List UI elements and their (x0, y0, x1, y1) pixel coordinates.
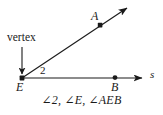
point-dot-E (20, 76, 25, 81)
geometry-figure: vertex A B E 2 s ∠2, ∠E, ∠AEB (0, 0, 163, 115)
point-dot-A (98, 23, 103, 28)
ray-ea-line (22, 8, 127, 78)
point-dot-B (113, 75, 118, 80)
figure-caption: ∠2, ∠E, ∠AEB (0, 93, 163, 108)
